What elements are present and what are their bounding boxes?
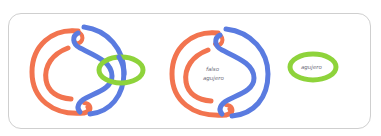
label-agujero-1: agujero — [203, 75, 225, 82]
figure-linked-with-ring — [32, 27, 143, 114]
label-falso: falso — [206, 66, 220, 72]
figure-hole: agujero — [290, 54, 336, 80]
blue-outer-strand — [226, 29, 268, 116]
label-agujero-2: agujero — [301, 64, 323, 71]
blue-outer-strand — [84, 27, 124, 114]
orange-inner-strand — [46, 48, 71, 99]
diagram-canvas: falso agujero agujero — [0, 0, 381, 136]
blue-inner-strand — [74, 33, 112, 112]
figure-false-hole: falso agujero — [172, 29, 268, 116]
